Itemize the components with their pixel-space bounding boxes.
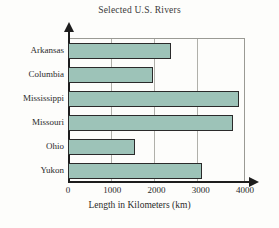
chart-title: Selected U.S. Rivers (0, 5, 279, 15)
x-tick-4000: 4000 (225, 185, 265, 195)
bar-ohio (68, 139, 135, 155)
x-tick-3000: 3000 (181, 185, 221, 195)
bar-columbia (68, 67, 153, 83)
gridline-3000 (197, 39, 198, 181)
gridline-1000 (111, 39, 112, 181)
category-label-arkansas: Arkansas (0, 45, 64, 55)
category-label-columbia: Columbia (0, 69, 64, 79)
bar-chart: Selected U.S. Rivers ArkansasColumbiaMis… (0, 0, 279, 228)
category-label-yukon: Yukon (0, 165, 64, 175)
category-label-missouri: Missouri (0, 117, 64, 127)
x-tick-2000: 2000 (137, 185, 177, 195)
y-axis-arrow-icon (64, 22, 74, 32)
gridline-2000 (154, 39, 155, 181)
bar-missouri (68, 115, 233, 131)
category-label-mississippi: Mississippi (0, 93, 64, 103)
bar-yukon (68, 163, 202, 179)
category-label-ohio: Ohio (0, 141, 64, 151)
x-axis-title: Length in Kilometers (km) (0, 200, 279, 210)
x-tick-0: 0 (48, 185, 88, 195)
bar-mississippi (68, 91, 239, 107)
bar-arkansas (68, 43, 171, 59)
plot-area (68, 38, 245, 182)
x-tick-1000: 1000 (92, 185, 132, 195)
x-axis-line (68, 181, 250, 183)
